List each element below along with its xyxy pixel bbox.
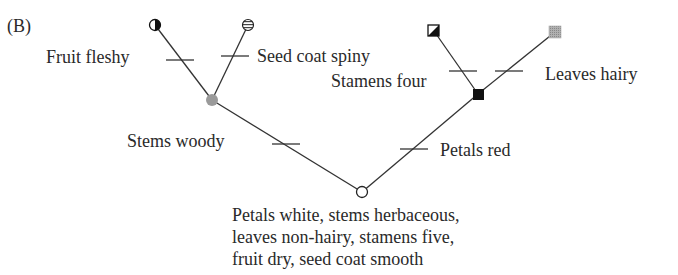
label-leaves-hairy: Leaves hairy [545,64,637,85]
panel-label: (B) [7,16,31,37]
label-seed-coat-spiny: Seed coat spiny [257,46,370,67]
branch-woody-to-leaf2 [212,25,248,100]
root-description-line: Petals white, stems herbaceous, [232,204,459,226]
root-description-line: leaves non-hairy, stamens five, [232,226,459,248]
branch-root-to-woody [212,100,362,192]
label-fruit-fleshy: Fruit fleshy [46,47,130,68]
black-square-node-icon [473,89,484,100]
diagonal-half-square-icon [428,25,439,36]
label-stamens-four: Stamens four [331,71,426,92]
root-description-line: fruit dry, seed coat smooth [232,248,459,270]
root-open-circle-icon [357,187,368,198]
striped-circle-icon [243,20,254,31]
gray-circle-node-icon [206,94,218,106]
half-filled-circle-icon [150,20,161,31]
label-petals-red: Petals red [440,140,510,161]
label-stems-woody: Stems woody [127,131,225,152]
gray-square-icon [549,26,561,38]
root-description: Petals white, stems herbaceous, leaves n… [232,204,459,270]
branch-red-to-leaf3 [434,31,478,94]
branch-woody-to-leaf1 [155,25,212,100]
branch-red-to-leaf4 [478,32,555,94]
